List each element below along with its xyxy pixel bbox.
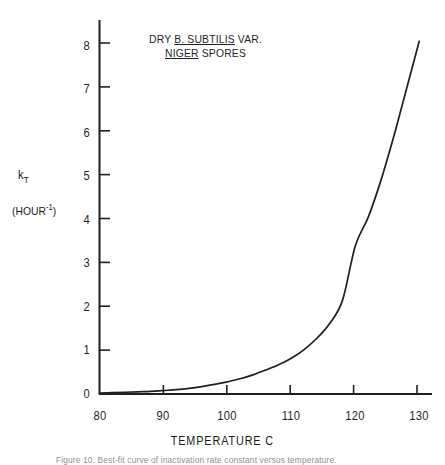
y-axis-label: kT: [18, 168, 29, 185]
y-axis-ticks: [100, 43, 110, 350]
x-tick-label: 130: [402, 408, 436, 423]
y-units-open: (HOUR: [12, 205, 46, 217]
y-tick-label: 7: [67, 81, 89, 96]
data-curve: [100, 41, 420, 393]
y-units-close: ): [53, 205, 56, 217]
figure-caption-clip: Figure 10. Best-fit curve of inactivatio…: [0, 455, 445, 465]
y-tick-label: 0: [67, 386, 89, 401]
y-axis-subscript: T: [24, 175, 29, 185]
figure-container: DRY B. SUBTILIS VAR. NIGER SPORES kT (HO…: [0, 0, 445, 465]
title-suffix: VAR.: [235, 33, 262, 45]
title-species-name: B. SUBTILIS: [174, 33, 235, 45]
title-prefix: DRY: [149, 33, 174, 45]
figure-caption: Figure 10. Best-fit curve of inactivatio…: [56, 455, 337, 465]
y-tick-label: 3: [67, 255, 89, 270]
y-tick-label: 2: [67, 299, 89, 314]
y-axis-units: (HOUR-1): [12, 202, 56, 217]
x-axis-title: TEMPERATURE C: [0, 434, 445, 448]
y-tick-label: 8: [67, 38, 89, 53]
y-tick-label: 1: [67, 342, 89, 357]
y-tick-label: 6: [67, 125, 89, 140]
x-tick-label: 100: [210, 408, 244, 423]
x-tick-label: 120: [338, 408, 372, 423]
title-line2-suffix: SPORES: [199, 47, 246, 59]
chart-title-line-1: DRY B. SUBTILIS VAR.: [127, 32, 285, 46]
y-tick-label: 4: [67, 212, 89, 227]
y-tick-label: 5: [67, 168, 89, 183]
chart-title-line-2: NIGER SPORES: [127, 46, 285, 60]
x-tick-label: 80: [82, 408, 116, 423]
title-variety-name: NIGER: [165, 47, 199, 59]
x-tick-label: 110: [274, 408, 308, 423]
chart-title: DRY B. SUBTILIS VAR. NIGER SPORES: [127, 32, 285, 60]
x-tick-label: 90: [146, 408, 180, 423]
